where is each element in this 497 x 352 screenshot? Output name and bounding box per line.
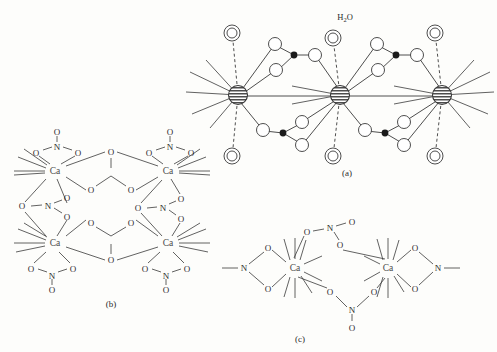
oxygen-label: O	[337, 240, 344, 250]
water-molecule	[427, 148, 443, 164]
metal-center-ca	[229, 86, 248, 105]
metal-label-ca: Ca	[163, 166, 174, 176]
water-molecule	[224, 25, 240, 41]
oxygen-atom	[371, 38, 384, 51]
oxygen-label: O	[349, 217, 356, 227]
water-molecule	[427, 25, 443, 41]
oxygen-label: O	[167, 127, 174, 137]
nitrogen-label: N	[163, 271, 170, 281]
oxygen-label: O	[178, 194, 185, 204]
oxygen-atom	[296, 116, 309, 129]
chemical-structure-figure: H2O (a)	[0, 0, 497, 352]
oxygen-atom	[270, 64, 283, 77]
nitrogen-label: N	[167, 142, 174, 152]
oxygen-label: O	[163, 285, 170, 295]
water-molecule	[325, 30, 341, 46]
oxygen-atom	[269, 38, 282, 51]
oxygen-label: O	[135, 203, 142, 213]
oxygen-label: O	[304, 227, 311, 237]
carbon-atom	[382, 130, 389, 137]
metal-label-ca: Ca	[383, 263, 394, 273]
panel-a-caption: (a)	[342, 168, 352, 178]
carbon-atom	[393, 52, 400, 59]
oxygen-atom	[398, 139, 411, 152]
oxygen-label: O	[188, 148, 195, 158]
oxygen-label: O	[75, 148, 82, 158]
oxygen-label: O	[49, 285, 56, 295]
oxygen-atom	[309, 49, 322, 62]
oxygen-label: O	[265, 243, 272, 253]
oxygen-atom	[257, 124, 270, 137]
panel-b-caption: (b)	[106, 299, 117, 309]
water-molecule	[325, 148, 341, 164]
nitrogen-label: N	[327, 223, 334, 233]
oxygen-label: O	[64, 212, 71, 222]
oxygen-label: O	[178, 214, 185, 224]
oxygen-atom	[398, 116, 411, 129]
oxygen-label: O	[412, 284, 419, 294]
metal-label-ca: Ca	[163, 238, 174, 248]
metal-label-ca: Ca	[290, 263, 301, 273]
oxygen-atom	[359, 124, 372, 137]
metal-center-ca	[433, 86, 452, 105]
oxygen-label: O	[19, 201, 26, 211]
oxygen-label: O	[64, 193, 71, 203]
nitrogen-label: N	[435, 263, 442, 273]
oxygen-label: O	[88, 218, 95, 228]
panel-c-caption: (c)	[295, 334, 305, 344]
oxygen-atom	[296, 139, 309, 152]
oxygen-label: O	[128, 185, 135, 195]
metal-label-ca: Ca	[50, 166, 61, 176]
oxygen-label: O	[28, 264, 35, 274]
oxygen-label: O	[349, 323, 356, 333]
nitrogen-label: N	[49, 271, 56, 281]
water-molecule	[224, 148, 240, 164]
oxygen-label: O	[146, 148, 153, 158]
nitrogen-label: N	[45, 201, 52, 211]
oxygen-label: O	[412, 243, 419, 253]
oxygen-label: O	[128, 218, 135, 228]
oxygen-label: O	[371, 287, 378, 297]
nitrogen-label: N	[349, 305, 356, 315]
oxygen-label: O	[54, 127, 61, 137]
oxygen-label: O	[108, 147, 115, 157]
oxygen-atom	[411, 49, 424, 62]
nitrogen-label: N	[160, 203, 167, 213]
nitrogen-label: N	[241, 263, 248, 273]
oxygen-label: O	[33, 148, 40, 158]
oxygen-label: O	[265, 284, 272, 294]
oxygen-label: O	[108, 255, 115, 265]
oxygen-label: O	[88, 185, 95, 195]
oxygen-label: O	[142, 264, 149, 274]
metal-center-ca	[331, 86, 350, 105]
oxygen-label: O	[70, 264, 77, 274]
oxygen-label: O	[184, 264, 191, 274]
oxygen-atom	[372, 64, 385, 77]
carbon-atom	[280, 130, 287, 137]
metal-label-ca: Ca	[50, 238, 61, 248]
nitrogen-label: N	[54, 142, 61, 152]
oxygen-label: O	[327, 287, 334, 297]
figure-root: H2O (a)	[0, 0, 497, 352]
carbon-atom	[291, 52, 298, 59]
